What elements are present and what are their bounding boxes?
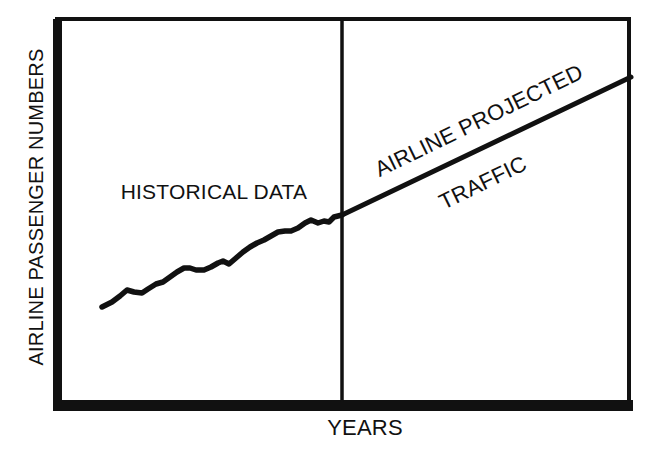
chart-canvas (0, 0, 645, 457)
historical-data-line (102, 215, 342, 307)
y-axis-label: AIRLINE PASSENGER NUMBERS (25, 49, 48, 366)
historical-data-annotation: HISTORICAL DATA (121, 180, 308, 204)
x-axis-label: YEARS (327, 415, 403, 441)
y-axis-line (53, 19, 62, 410)
